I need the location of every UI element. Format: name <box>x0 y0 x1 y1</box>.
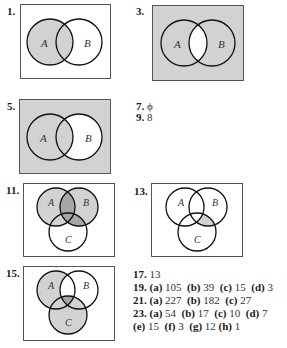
svg-text:A: A <box>47 280 55 291</box>
answer-23-continued: (e) 15 (f) 3 (g) 12 (h) 1 <box>133 320 240 332</box>
svg-text:A: A <box>47 197 55 208</box>
problem-number: 3. <box>136 5 144 17</box>
svg-text:A: A <box>173 38 181 50</box>
venn-diagram-13: A B C <box>151 183 243 257</box>
svg-text:A: A <box>39 132 47 144</box>
problem-number: 15. <box>6 267 20 279</box>
answer-17: 17. 13 <box>133 268 161 280</box>
problem-number: 13. <box>134 185 148 197</box>
problem-number: 1. <box>7 5 15 17</box>
svg-text:C: C <box>65 234 72 245</box>
venn-diagram-11: A B C <box>23 183 115 257</box>
svg-text:C: C <box>194 234 201 245</box>
svg-text:B: B <box>218 38 225 50</box>
svg-text:B: B <box>83 280 89 291</box>
svg-text:B: B <box>83 197 89 208</box>
problem-number: 11. <box>6 184 19 196</box>
venn-diagram-1: A B <box>20 4 111 79</box>
svg-text:B: B <box>84 37 91 49</box>
venn-diagram-15: A B C <box>23 266 115 341</box>
problem-number: 5. <box>7 100 15 112</box>
answer-9: 9. 8 <box>136 111 153 123</box>
answer-19: 19. (a) 105 (b) 39 (c) 15 (d) 3 <box>133 281 273 293</box>
venn-diagram-3: A B <box>152 5 244 81</box>
svg-text:A: A <box>40 37 48 49</box>
venn-diagram-5: A B <box>19 99 111 174</box>
svg-text:C: C <box>65 317 72 328</box>
svg-text:B: B <box>85 132 92 144</box>
answer-23: 23. (a) 54 (b) 17 (c) 10 (d) 7 <box>133 307 267 319</box>
svg-text:B: B <box>212 197 218 208</box>
svg-text:A: A <box>177 197 185 208</box>
answer-21: 21. (a) 227 (b) 182 (c) 27 <box>133 294 251 306</box>
